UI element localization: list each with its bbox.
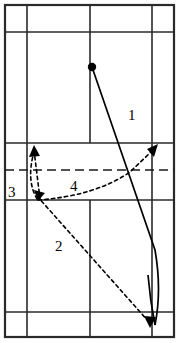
badminton-court-diagram: 1 2 3 4 [0,0,180,343]
shot-label-3: 3 [8,184,16,200]
shot-trajectory-2 [37,196,149,322]
shot-label-2: 2 [55,238,63,254]
serve-origin-dot [88,63,96,71]
court-canvas: 1 2 3 4 [0,0,180,343]
shot-label-4: 4 [70,178,78,194]
shot-label-1: 1 [128,107,136,123]
